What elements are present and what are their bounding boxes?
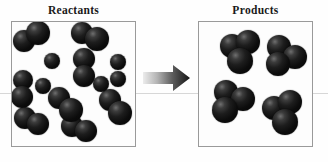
atom-sphere <box>266 52 290 76</box>
reactants-title: Reactants <box>11 4 136 16</box>
products-box <box>198 21 313 147</box>
atom-sphere <box>108 101 132 125</box>
atom-sphere <box>11 86 33 108</box>
atom-sphere <box>110 71 126 87</box>
reaction-arrow <box>143 64 191 92</box>
atom-sphere <box>272 109 298 135</box>
atom-sphere <box>93 76 109 92</box>
atom-sphere <box>227 48 253 74</box>
atom-sphere <box>44 53 60 69</box>
atom-sphere <box>27 113 49 135</box>
reactants-box <box>11 21 136 147</box>
products-title: Products <box>198 4 313 16</box>
atom-sphere <box>26 21 50 45</box>
atom-sphere <box>59 98 83 122</box>
atom-sphere <box>73 65 95 87</box>
arrow-shape <box>143 65 190 91</box>
figure-canvas: Reactants Products <box>0 0 328 162</box>
atom-sphere <box>85 27 109 51</box>
atom-sphere <box>110 54 126 70</box>
atom-sphere <box>212 97 238 123</box>
atom-sphere <box>75 120 97 142</box>
